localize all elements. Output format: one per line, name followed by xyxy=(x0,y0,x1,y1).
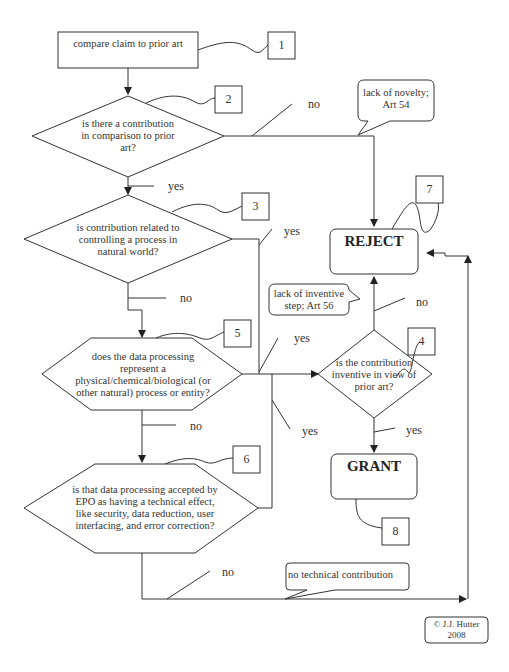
step-number-7: 7 xyxy=(416,182,443,197)
edge-label-novelty-no: no xyxy=(308,97,320,112)
no-technical-callout: no technical contribution xyxy=(288,569,398,581)
step-number-6: 6 xyxy=(233,452,260,467)
edge-label-inventive-no: no xyxy=(416,295,428,310)
edge-label-control-yes: yes xyxy=(284,224,300,239)
decision-control-label: is contribution related to controlling a… xyxy=(68,222,188,258)
edge-label-natural-no: no xyxy=(190,419,202,434)
step-number-2: 2 xyxy=(215,92,242,107)
reject-label: REJECT xyxy=(330,233,418,250)
edge-label-natural-yes: yes xyxy=(294,331,310,346)
decision-technical-label: is that data processing accepted by EPO … xyxy=(55,484,235,532)
step-number-4: 4 xyxy=(408,334,435,349)
edge-label-contribution-yes: yes xyxy=(168,179,184,194)
copyright: © J.J. Hutter 2008 xyxy=(425,619,488,641)
edge-label-technical-yes: yes xyxy=(302,424,318,439)
grant-label: GRANT xyxy=(331,458,417,475)
decision-contribution-label: is there a contribution in comparison to… xyxy=(68,118,188,154)
step-number-3: 3 xyxy=(242,199,269,214)
inventive-step-callout: lack of inventive step; Art 56 xyxy=(269,288,349,312)
start-label: compare claim to prior art xyxy=(58,38,198,50)
decision-natural-label: does the data processing represent a phy… xyxy=(60,351,226,399)
decision-inventive-label: is the contribution inventive in view of… xyxy=(324,357,424,393)
step-number-1: 1 xyxy=(268,38,295,53)
novelty-callout: lack of novelty; Art 54 xyxy=(358,87,434,111)
edge-label-control-no: no xyxy=(180,291,192,306)
edge-label-inventive-yes: yes xyxy=(406,423,422,438)
step-number-8: 8 xyxy=(382,524,409,539)
edge-label-technical-no: no xyxy=(222,565,234,580)
step-number-5: 5 xyxy=(224,326,251,341)
